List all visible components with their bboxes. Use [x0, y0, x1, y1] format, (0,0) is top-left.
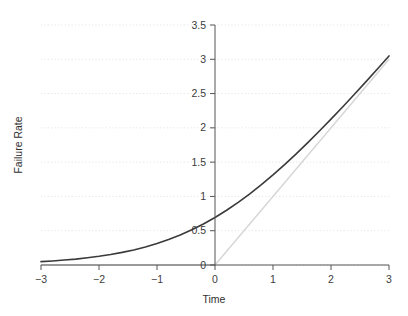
y-tick-label: 1.5 [191, 156, 206, 168]
x-tick-label: −3 [35, 273, 47, 285]
x-tick-label: 0 [212, 273, 218, 285]
y-tick-label: 1 [200, 190, 206, 202]
x-tick-group: −3−2−10123 [35, 265, 392, 285]
y-tick-label: 3 [200, 53, 206, 65]
chart-container: −3−2−10123 00.511.522.533.5 Time Failure… [0, 0, 408, 316]
x-tick-label: −1 [151, 273, 163, 285]
y-tick-label: 2.5 [191, 87, 206, 99]
x-axis-title: Time [203, 293, 226, 305]
chart-plot: −3−2−10123 00.511.522.533.5 Time Failure… [0, 0, 408, 316]
y-tick-label: 3.5 [191, 19, 206, 31]
y-axis-title: Failure Rate [12, 116, 24, 173]
x-tick-label: 1 [270, 273, 276, 285]
y-tick-label: 0.5 [191, 224, 206, 236]
y-tick-label: 0 [200, 259, 206, 271]
x-tick-label: 3 [386, 273, 392, 285]
axis-lines-group [41, 25, 389, 265]
y-tick-label: 2 [200, 121, 206, 133]
x-tick-label: 2 [328, 273, 334, 285]
x-tick-label: −2 [93, 273, 105, 285]
y-tick-group: 00.511.522.533.5 [191, 19, 215, 271]
